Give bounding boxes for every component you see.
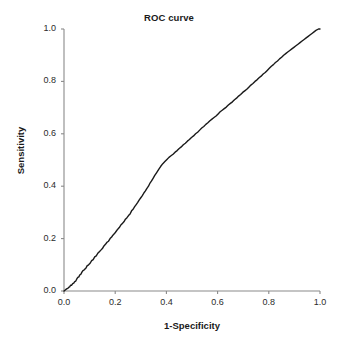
y-tick-label: 1.0 <box>32 23 56 33</box>
y-tick-label: 0.2 <box>32 233 56 243</box>
tick-marks-group <box>61 29 320 294</box>
x-tick-label: 0.2 <box>100 297 130 307</box>
y-tick-label: 0.6 <box>32 128 56 138</box>
y-tick-label: 0.8 <box>32 75 56 85</box>
x-tick-label: 0.8 <box>254 297 284 307</box>
x-tick-label: 1.0 <box>305 297 335 307</box>
x-tick-label: 0.0 <box>49 297 79 307</box>
roc-curve-line <box>64 29 320 291</box>
x-axis-label: 1-Specificity <box>64 320 320 331</box>
y-tick-label: 0.0 <box>32 285 56 295</box>
y-axis-label: Sensitivity <box>15 81 26 221</box>
y-tick-label: 0.4 <box>32 180 56 190</box>
axes-group <box>64 29 320 291</box>
roc-curve-figure: ROC curve 0.00.20.40.60.81.0 0.00.20.40.… <box>0 0 338 346</box>
x-tick-label: 0.4 <box>151 297 181 307</box>
x-tick-label: 0.6 <box>203 297 233 307</box>
